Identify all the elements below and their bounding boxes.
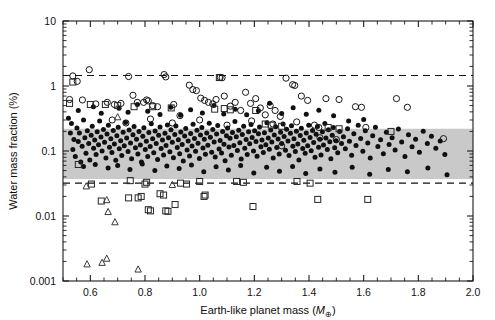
data-point-filled-circle — [188, 131, 193, 136]
data-point-filled-circle — [191, 122, 196, 127]
data-point-filled-circle — [235, 148, 240, 153]
data-point-filled-circle — [247, 141, 252, 146]
data-point-filled-circle — [115, 163, 120, 168]
data-point-filled-circle — [277, 169, 282, 174]
data-point-filled-circle — [107, 145, 112, 150]
data-point-filled-circle — [396, 127, 401, 132]
data-point-filled-circle — [410, 144, 415, 149]
data-point-filled-circle — [215, 123, 220, 128]
data-point-filled-circle — [146, 130, 151, 135]
data-point-filled-circle — [113, 158, 118, 163]
data-point-filled-circle — [132, 124, 137, 129]
y-tick-label: 0.01 — [36, 210, 57, 222]
data-point-filled-circle — [259, 137, 264, 142]
data-point-filled-circle — [299, 126, 304, 131]
data-point-filled-circle — [350, 165, 355, 170]
x-tick-label: 1.0 — [192, 286, 207, 298]
data-point-filled-circle — [134, 137, 139, 142]
data-point-filled-circle — [176, 137, 181, 142]
data-point-filled-circle — [194, 128, 199, 133]
data-point-filled-circle — [291, 105, 296, 110]
data-point-filled-circle — [269, 140, 274, 145]
data-point-filled-circle — [346, 118, 351, 123]
data-point-filled-circle — [251, 149, 256, 154]
data-point-filled-circle — [399, 140, 404, 145]
data-point-filled-circle — [296, 157, 301, 162]
data-point-filled-circle — [304, 131, 309, 136]
data-point-open-square — [178, 180, 184, 186]
data-point-open-circle — [323, 95, 329, 101]
data-point-open-circle — [404, 104, 410, 110]
data-point-filled-circle — [161, 152, 166, 157]
data-point-filled-circle — [105, 132, 110, 137]
data-point-filled-circle — [381, 151, 386, 156]
data-point-filled-circle — [214, 164, 219, 169]
data-point-open-square — [172, 202, 178, 208]
data-point-filled-circle — [278, 130, 283, 135]
data-point-open-circle — [283, 75, 289, 81]
data-point-open-circle — [104, 99, 110, 105]
data-point-filled-circle — [258, 144, 263, 149]
data-point-open-circle — [126, 73, 132, 79]
data-point-filled-circle — [143, 147, 148, 152]
data-point-filled-circle — [112, 142, 117, 147]
data-point-filled-circle — [159, 146, 164, 151]
data-point-filled-circle — [162, 131, 167, 136]
data-point-open-circle — [294, 119, 300, 125]
data-point-filled-circle — [390, 135, 395, 140]
data-point-filled-circle — [421, 129, 426, 134]
data-point-filled-circle — [241, 124, 246, 129]
data-point-open-circle — [247, 100, 253, 106]
data-point-open-triangle — [105, 208, 111, 214]
data-point-filled-circle — [203, 152, 208, 157]
data-point-filled-circle — [246, 129, 251, 134]
data-point-filled-circle — [74, 126, 79, 131]
y-tick-label: 1 — [50, 80, 56, 92]
data-point-filled-circle — [89, 133, 94, 138]
data-point-filled-circle — [214, 131, 219, 136]
x-tick-label: 1.6 — [356, 286, 371, 298]
data-point-filled-circle — [325, 147, 330, 152]
data-point-filled-circle — [245, 152, 250, 157]
data-point-filled-circle — [150, 136, 155, 141]
data-point-open-square — [365, 196, 371, 202]
data-point-filled-circle — [347, 139, 352, 144]
data-point-open-circle — [130, 92, 136, 98]
data-point-filled-circle — [156, 133, 161, 138]
data-point-filled-circle — [121, 130, 126, 135]
data-point-filled-circle — [100, 149, 105, 154]
data-point-filled-circle — [80, 144, 85, 149]
data-point-filled-circle — [387, 142, 392, 147]
data-point-filled-circle — [171, 155, 176, 160]
data-point-filled-circle — [221, 142, 226, 147]
data-point-filled-circle — [262, 130, 267, 135]
data-point-filled-circle — [393, 147, 398, 152]
data-point-filled-circle — [282, 134, 287, 139]
data-point-filled-circle — [196, 141, 201, 146]
data-point-filled-circle — [356, 123, 361, 128]
data-point-filled-circle — [140, 162, 145, 167]
data-point-filled-circle — [229, 153, 234, 158]
data-point-filled-circle — [73, 154, 78, 159]
data-point-filled-circle — [255, 154, 260, 159]
data-point-filled-circle — [158, 112, 163, 117]
data-point-filled-circle — [90, 124, 95, 129]
data-point-open-circle — [298, 93, 304, 99]
data-point-filled-circle — [99, 111, 104, 116]
data-point-filled-circle — [321, 142, 326, 147]
y-axis-title: Water mass fraction (%) — [7, 92, 19, 210]
data-point-open-circle — [197, 117, 203, 123]
data-point-filled-circle — [257, 125, 262, 130]
scatter-plot: 0.60.81.01.21.41.61.82.00.0010.010.1110 … — [0, 0, 495, 320]
data-point-filled-circle — [108, 136, 113, 141]
data-point-open-circle — [305, 97, 311, 103]
data-point-filled-circle — [226, 145, 231, 150]
data-point-filled-circle — [305, 143, 310, 148]
data-point-filled-circle — [70, 147, 75, 152]
data-point-open-circle — [352, 104, 358, 110]
data-point-filled-circle — [164, 143, 169, 148]
data-point-filled-circle — [170, 140, 175, 145]
data-point-filled-circle — [180, 142, 185, 147]
data-point-filled-circle — [358, 136, 363, 141]
x-tick-label: 1.8 — [411, 286, 426, 298]
